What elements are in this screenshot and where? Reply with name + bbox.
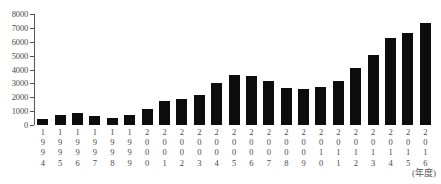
x-axis-tick-label: 2010: [313, 127, 329, 168]
x-axis-tick-label: 1998: [104, 127, 120, 168]
bar: [315, 87, 326, 125]
bar: [368, 55, 379, 125]
bar: [194, 95, 205, 125]
x-axis-tick-label: 1997: [87, 127, 103, 168]
x-axis-tick-label: 2003: [191, 127, 207, 168]
bar: [124, 115, 135, 125]
bar-series: [34, 14, 434, 125]
y-axis-tick-mark: [30, 125, 34, 126]
y-axis-tick-label: 6000: [0, 38, 28, 47]
x-axis-tick-label: 2012: [348, 127, 364, 168]
x-axis-tick-label: 1995: [52, 127, 68, 168]
x-axis-tick-label: 2001: [156, 127, 172, 168]
x-axis-tick-label: 2000: [139, 127, 155, 168]
y-axis-tick-label: 4000: [0, 66, 28, 75]
x-axis-tick-label: 2006: [243, 127, 259, 168]
y-axis-tick-label: 3000: [0, 79, 28, 88]
x-axis-tick-label: 2013: [365, 127, 381, 168]
bar: [333, 81, 344, 125]
bar: [246, 76, 257, 125]
bar: [72, 113, 83, 125]
x-axis-tick-label: 2005: [226, 127, 242, 168]
x-axis-tick-label: 2007: [261, 127, 277, 168]
y-axis-tick-label: 8000: [0, 10, 28, 19]
bar: [298, 89, 309, 125]
x-axis-labels: 1994199519961997199819992000200120022003…: [34, 127, 434, 171]
x-axis-tick-label: 2002: [174, 127, 190, 168]
bar: [350, 68, 361, 125]
x-axis-tick-label: 1996: [69, 127, 85, 168]
x-axis-tick-label: 2016: [417, 127, 433, 168]
x-axis-caption: (年度): [412, 168, 436, 178]
y-axis-tick-label: 0: [0, 121, 28, 130]
bar: [55, 115, 66, 125]
y-axis-tick-label: 1000: [0, 107, 28, 116]
bar: [385, 38, 396, 125]
bar: [142, 109, 153, 125]
x-axis-tick-label: 2015: [400, 127, 416, 168]
y-axis-tick-label: 2000: [0, 93, 28, 102]
x-axis-tick-label: 2011: [330, 127, 346, 168]
x-axis-tick-label: 2004: [209, 127, 225, 168]
bar: [176, 99, 187, 125]
bar: [107, 118, 118, 125]
bar: [402, 33, 413, 125]
bar: [420, 23, 431, 125]
x-axis-tick-label: 2008: [278, 127, 294, 168]
x-axis-tick-label: 2014: [383, 127, 399, 168]
x-axis-tick-label: 1994: [35, 127, 51, 168]
bar: [281, 88, 292, 125]
x-axis-tick-label: 2009: [296, 127, 312, 168]
x-axis-tick-label: 1999: [122, 127, 138, 168]
bar-chart: 800070006000500040003000200010000 199419…: [0, 0, 441, 184]
y-axis-tick-label: 5000: [0, 52, 28, 61]
bar: [89, 116, 100, 125]
bar: [159, 101, 170, 125]
bar: [37, 119, 48, 125]
bar: [229, 75, 240, 125]
y-axis-tick-label: 7000: [0, 24, 28, 33]
bar: [211, 83, 222, 125]
bar: [263, 81, 274, 125]
